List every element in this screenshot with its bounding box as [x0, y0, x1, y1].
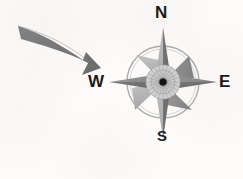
- compass-hub: [146, 65, 180, 99]
- compass-illustration: N W E S: [0, 0, 243, 150]
- worksheet-page: N W E S 2. west wept: [0, 0, 243, 179]
- compass-label-east: E: [219, 73, 230, 90]
- curved-arrow-icon: [18, 26, 101, 75]
- compass-label-north: N: [155, 4, 167, 21]
- compass-label-west: W: [88, 73, 104, 90]
- answer-row: 2. west wept: [0, 150, 243, 179]
- compass-label-south: S: [157, 128, 167, 143]
- compass-illustration-svg: [0, 0, 243, 150]
